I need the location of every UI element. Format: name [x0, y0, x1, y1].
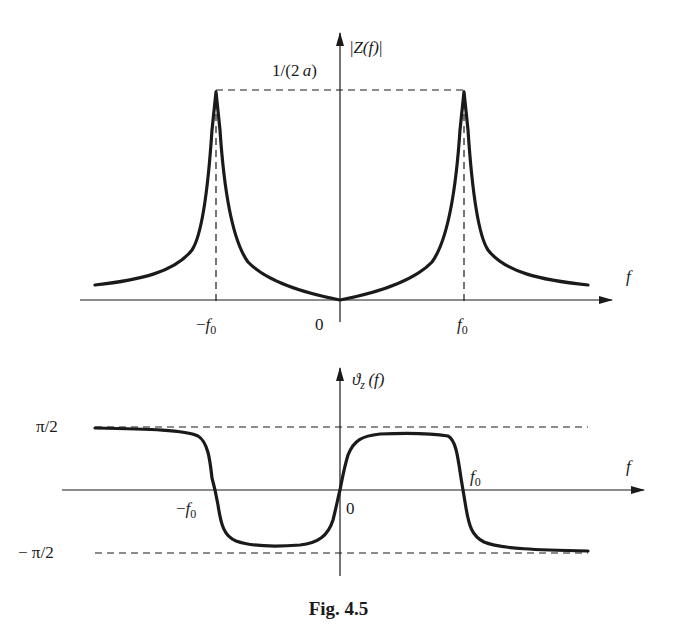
abs-bar-right: | [379, 38, 382, 57]
bottom-neg-f0-tick-label: −f0 [176, 500, 196, 520]
top-y-axis-label: |Z(f)| [350, 39, 382, 56]
z-of-f: Z(f) [353, 38, 379, 57]
magnitude-curve [95, 92, 588, 300]
top-neg-f0-tick-label: −f0 [196, 316, 216, 336]
subscript-0: 0 [190, 507, 196, 521]
subscript-0: 0 [462, 323, 468, 337]
figure-canvas [0, 0, 677, 633]
top-f0-tick-label: f0 [457, 316, 468, 336]
minus-sign: − [176, 499, 186, 518]
subscript-0: 0 [475, 475, 481, 489]
subscript-z: z [360, 378, 365, 392]
magnitude-plot [80, 33, 612, 322]
pi-half-tick-label: π/2 [36, 418, 58, 435]
peak-value-text: 1/(2 [272, 61, 299, 80]
bottom-zero-tick-label: 0 [346, 500, 355, 517]
neg-pi-half-tick-label: − π/2 [18, 544, 54, 561]
minus-sign: − [196, 315, 206, 334]
peak-value-close: ) [311, 61, 317, 80]
top-x-axis-label: f [626, 268, 631, 285]
figure-caption: Fig. 4.5 [0, 598, 677, 620]
phase-plot [62, 368, 644, 576]
arg-f: (f) [368, 370, 384, 389]
top-zero-tick-label: 0 [315, 316, 324, 333]
subscript-0: 0 [210, 323, 216, 337]
peak-value-label: 1/(2 a) [272, 62, 317, 79]
bottom-f0-tick-label: f0 [470, 468, 481, 488]
bottom-x-axis-label: f [626, 458, 631, 475]
bottom-y-axis-label: ϑz (f) [352, 371, 384, 391]
